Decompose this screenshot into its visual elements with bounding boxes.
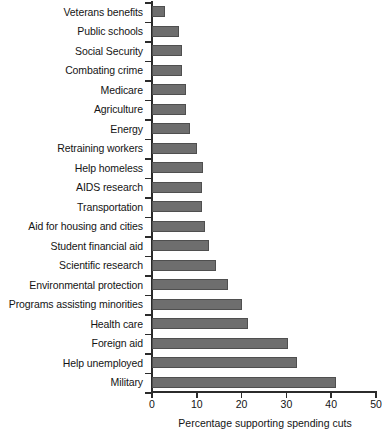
bar-row <box>152 41 376 61</box>
y-axis-label: Military <box>0 373 143 393</box>
bar-row <box>152 275 376 295</box>
y-axis-tick <box>145 314 152 316</box>
bar-row <box>152 334 376 354</box>
y-axis-label: Environmental protection <box>0 275 143 295</box>
y-axis-label: Agriculture <box>0 100 143 120</box>
bar-row <box>152 256 376 276</box>
y-axis-tick <box>145 275 152 277</box>
y-axis-label: Scientific research <box>0 256 143 276</box>
bar <box>152 123 190 134</box>
bar <box>152 377 336 388</box>
x-axis-tick-label: 10 <box>191 399 203 410</box>
y-axis-label: Retraining workers <box>0 139 143 159</box>
y-axis-tick <box>145 61 152 63</box>
bar-row <box>152 178 376 198</box>
x-axis-tick-label: 20 <box>236 399 248 410</box>
bar-row <box>152 119 376 139</box>
y-axis-label: Public schools <box>0 22 143 42</box>
bar <box>152 201 202 212</box>
y-axis-label: Help homeless <box>0 158 143 178</box>
y-axis-label: Student financial aid <box>0 236 143 256</box>
y-axis-tick <box>145 236 152 238</box>
bar <box>152 182 202 193</box>
bar-row <box>152 373 376 393</box>
bar <box>152 299 242 310</box>
y-axis-tick <box>145 158 152 160</box>
y-axis-tick <box>145 373 152 375</box>
y-axis-tick <box>145 197 152 199</box>
bar-row <box>152 295 376 315</box>
y-axis-tick <box>145 217 152 219</box>
y-axis-label: Aid for housing and cities <box>0 217 143 237</box>
x-axis-tick-label: 50 <box>370 399 382 410</box>
bar-row <box>152 158 376 178</box>
bar <box>152 221 205 232</box>
y-axis-tick <box>145 2 152 4</box>
bar-row <box>152 61 376 81</box>
plot-area <box>152 2 376 392</box>
x-axis-tick-label: 30 <box>281 399 293 410</box>
y-axis-tick <box>145 178 152 180</box>
bar-row <box>152 236 376 256</box>
bar <box>152 279 228 290</box>
y-axis-label: Health care <box>0 314 143 334</box>
bar-row <box>152 217 376 237</box>
bar-row <box>152 80 376 100</box>
y-axis-tick <box>145 22 152 24</box>
bar-rows <box>152 2 376 392</box>
bar <box>152 143 197 154</box>
y-axis-label: Medicare <box>0 80 143 100</box>
y-axis-label: Foreign aid <box>0 334 143 354</box>
y-axis-category-labels: Veterans benefitsPublic schoolsSocial Se… <box>0 2 143 392</box>
y-axis-label: Energy <box>0 119 143 139</box>
y-axis-label: Combating crime <box>0 61 143 81</box>
y-axis-tick <box>145 139 152 141</box>
x-axis-title: Percentage supporting spending cuts <box>152 418 378 429</box>
bar <box>152 260 216 271</box>
y-axis-tick <box>145 41 152 43</box>
y-axis-label: Veterans benefits <box>0 2 143 22</box>
y-axis-tick <box>145 119 152 121</box>
x-axis-tick-label: 40 <box>325 399 337 410</box>
bar-row <box>152 2 376 22</box>
y-axis-tick <box>145 100 152 102</box>
y-axis-tick <box>145 353 152 355</box>
y-axis-label: Programs assisting minorities <box>0 295 143 315</box>
bar <box>152 338 288 349</box>
bar <box>152 26 179 37</box>
bar <box>152 240 209 251</box>
y-axis-tick <box>145 256 152 258</box>
bar-row <box>152 139 376 159</box>
y-axis-tick <box>145 295 152 297</box>
bar <box>152 84 186 95</box>
bar-row <box>152 314 376 334</box>
bar <box>152 65 182 76</box>
bar <box>152 162 203 173</box>
y-axis-tick <box>145 334 152 336</box>
bar-row <box>152 197 376 217</box>
bar <box>152 6 165 17</box>
bar <box>152 45 182 56</box>
y-axis-label: Help unemployed <box>0 353 143 373</box>
bar <box>152 318 248 329</box>
bar-row <box>152 353 376 373</box>
y-axis-label: Transportation <box>0 197 143 217</box>
y-axis-label: AIDS research <box>0 178 143 198</box>
x-axis-tick-label: 0 <box>149 399 155 410</box>
bar <box>152 104 186 115</box>
bar-row <box>152 22 376 42</box>
y-axis-tick <box>145 80 152 82</box>
y-axis-label: Social Security <box>0 41 143 61</box>
bar <box>152 357 297 368</box>
bar-row <box>152 100 376 120</box>
